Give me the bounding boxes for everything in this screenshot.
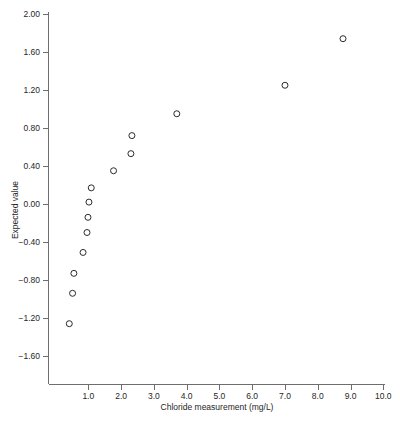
y-tick-label: 0.40 xyxy=(23,161,40,171)
y-axis: 2.001.601.200.800.400.00−0.40−0.80−1.20−… xyxy=(18,9,48,384)
x-tick-label: 7.0 xyxy=(279,391,291,401)
data-point xyxy=(129,133,135,139)
y-tick-label: 0.00 xyxy=(23,199,40,209)
data-point xyxy=(71,270,77,276)
x-tick-label: 1.0 xyxy=(82,391,94,401)
y-axis-title: Expected value xyxy=(10,181,20,239)
data-point xyxy=(174,111,180,117)
data-point xyxy=(111,168,117,174)
data-point xyxy=(80,249,86,255)
x-tick-label: 3.0 xyxy=(148,391,160,401)
y-tick-group: 2.001.601.200.800.400.00−0.40−0.80−1.20−… xyxy=(18,9,48,361)
plot-canvas: 2.001.601.200.800.400.00−0.40−0.80−1.20−… xyxy=(0,0,400,429)
data-point xyxy=(85,214,91,220)
x-tick-label: 5.0 xyxy=(214,391,226,401)
data-point xyxy=(70,290,76,296)
x-tick-label: 8.0 xyxy=(312,391,324,401)
x-tick-label: 6.0 xyxy=(246,391,258,401)
scatter-plot-figure: 2.001.601.200.800.400.00−0.40−0.80−1.20−… xyxy=(0,0,400,429)
x-tick-label: 9.0 xyxy=(345,391,357,401)
data-point xyxy=(340,36,346,42)
y-tick-label: 2.00 xyxy=(23,9,40,19)
x-axis-title: Chloride measurement (mg/L) xyxy=(161,402,274,412)
y-tick-label: −1.60 xyxy=(18,351,40,361)
y-tick-label: −0.80 xyxy=(18,275,40,285)
data-point xyxy=(86,199,92,205)
data-point xyxy=(88,185,94,191)
data-point xyxy=(66,321,72,327)
x-tick-label: 10.0 xyxy=(375,391,392,401)
data-point xyxy=(84,230,90,236)
x-tick-label: 2.0 xyxy=(115,391,127,401)
y-tick-label: 1.60 xyxy=(23,47,40,57)
x-tick-label: 4.0 xyxy=(181,391,193,401)
x-axis: 1.02.03.04.05.06.07.08.09.010.0 xyxy=(49,385,392,402)
x-tick-group: 1.02.03.04.05.06.07.08.09.010.0 xyxy=(82,385,391,402)
y-tick-label: 0.80 xyxy=(23,123,40,133)
data-point-group xyxy=(66,36,346,327)
data-point xyxy=(128,151,134,157)
data-point xyxy=(282,82,288,88)
y-tick-label: −1.20 xyxy=(18,313,40,323)
y-tick-label: −0.40 xyxy=(18,237,40,247)
y-tick-label: 1.20 xyxy=(23,85,40,95)
